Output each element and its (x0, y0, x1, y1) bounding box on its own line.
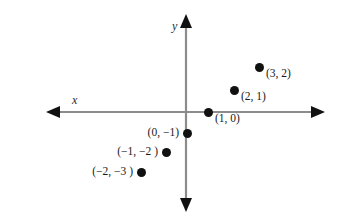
data-point (230, 86, 239, 95)
data-point (255, 63, 264, 72)
x-axis-left-arrowhead (46, 106, 60, 118)
axes-svg (0, 0, 347, 220)
data-point (162, 148, 171, 157)
data-point (183, 129, 192, 138)
data-point (204, 108, 213, 117)
x-axis-label: x (72, 94, 77, 106)
data-point-label: (−2, −3 ) (92, 166, 133, 178)
y-axis-label: y (172, 20, 177, 32)
data-point-label: (2, 1) (241, 91, 266, 103)
coordinate-plane-figure: x y (3, 2)(2, 1)(1, 0)(0, −1)(−1, −2 )(−… (0, 0, 347, 220)
data-point-label: (−1, −2 ) (117, 146, 158, 158)
x-axis-right-arrowhead (311, 106, 325, 118)
data-point-label: (0, −1) (148, 127, 179, 139)
data-point (137, 168, 146, 177)
data-point-label: (1, 0) (215, 113, 240, 125)
data-point-label: (3, 2) (266, 68, 291, 80)
y-axis-bottom-arrowhead (180, 198, 192, 212)
y-axis-top-arrowhead (180, 14, 192, 28)
